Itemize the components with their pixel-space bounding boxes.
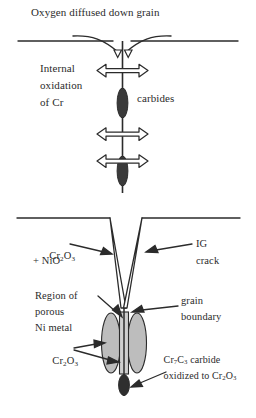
lower-carbide-ellipse (119, 375, 130, 396)
arrow-chromia-upper (74, 340, 105, 348)
oxide-ellipse-right (128, 313, 147, 373)
arrow-grain-boundary (132, 306, 178, 313)
crack-wall-left (110, 218, 126, 308)
upper-panel-drawing (0, 0, 256, 200)
carbide-ellipse-1 (117, 88, 128, 118)
arrow-oxide-scale (70, 244, 112, 255)
figure-root: Oxygen diffused down grain Internal oxid… (0, 0, 256, 418)
lower-panel: Cr2O3 + NiO IG crack Region of porous Ni… (0, 200, 256, 418)
upper-panel: Oxygen diffused down grain Internal oxid… (0, 0, 256, 200)
arrow-ig-crack (146, 244, 192, 253)
lower-panel-drawing (0, 200, 256, 418)
arrow-carbide-oxidized (131, 372, 166, 387)
crack-wall-right (124, 218, 143, 308)
funnel-curve-left (73, 36, 118, 52)
